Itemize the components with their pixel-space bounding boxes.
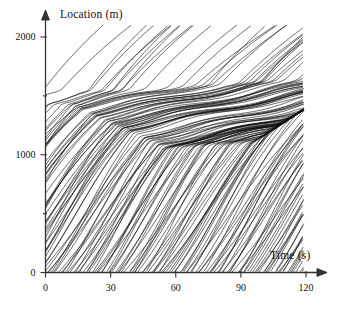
trajectory-line xyxy=(112,110,303,272)
trajectory-line xyxy=(302,269,304,271)
trajectory-line xyxy=(300,267,304,271)
x-axis-arrow xyxy=(317,269,327,277)
trajectory-lines-group xyxy=(46,25,304,273)
trajectory-line xyxy=(46,26,131,95)
trajectory-line xyxy=(46,27,180,146)
x-tick-label: 0 xyxy=(43,282,48,293)
trajectory-line xyxy=(276,224,304,271)
plot-canvas xyxy=(0,0,340,314)
trajectory-line xyxy=(46,26,180,129)
trajectory-line xyxy=(46,96,303,230)
y-axis-title: Location (m) xyxy=(60,8,123,20)
y-tick-label: 1000 xyxy=(0,149,36,160)
y-tick-label: 0 xyxy=(0,267,36,278)
x-tick-label: 30 xyxy=(106,282,116,293)
x-axis-title: Time (s) xyxy=(270,249,310,261)
x-tick-label: 60 xyxy=(171,282,181,293)
trajectory-chart-figure: Location (m) Time (s) 010002000 03060901… xyxy=(0,0,340,314)
y-tick-label: 2000 xyxy=(0,31,36,42)
y-axis-arrow xyxy=(42,10,50,20)
x-tick-label: 90 xyxy=(236,282,246,293)
x-tick-label: 120 xyxy=(299,282,314,293)
